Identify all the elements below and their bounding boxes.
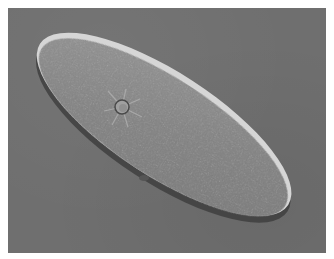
paramecium-illustration: [8, 8, 326, 253]
microscopy-image: Elongated slipper-shaped paramecium cell…: [8, 8, 326, 253]
particle: [139, 175, 149, 181]
